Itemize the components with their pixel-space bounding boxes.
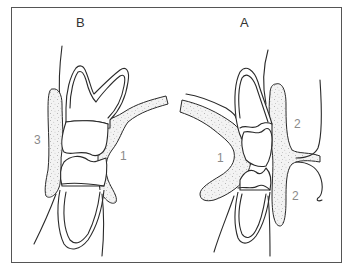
panel-a-lower-left-line xyxy=(214,196,234,252)
panel-a-middle-crown xyxy=(242,128,272,166)
panel-label-a: A xyxy=(240,16,249,29)
panel-a-region-label-2-lower: 2 xyxy=(292,190,299,202)
panel-a-lower-right-line xyxy=(268,196,270,256)
dental-diagram xyxy=(0,0,354,272)
panel-b-left-gingiva xyxy=(45,89,63,197)
panel-b-lower-left-line xyxy=(34,194,56,244)
panel-b-lower-crown xyxy=(61,156,107,186)
panel-b-upper-crown xyxy=(62,121,108,156)
panel-b-drawing xyxy=(34,46,168,256)
panel-a-region-label-1: 1 xyxy=(217,152,224,164)
panel-a-upper-soft-tissue-line xyxy=(264,50,268,104)
panel-a-drawing xyxy=(180,50,322,256)
panel-a-lower-lip-outline xyxy=(296,162,322,201)
panel-a-region-label-2-upper: 2 xyxy=(294,118,301,130)
panel-b-region-label-3: 3 xyxy=(34,134,41,146)
panel-label-b: B xyxy=(76,16,85,29)
panel-b-region-label-1: 1 xyxy=(120,150,127,162)
